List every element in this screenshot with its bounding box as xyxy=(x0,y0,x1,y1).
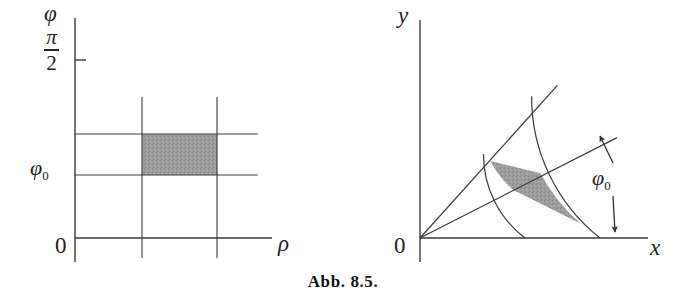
origin-label-right: 0 xyxy=(394,234,406,257)
phi0-right-label: φ0 xyxy=(592,167,611,192)
figure-caption: Abb. 8.5. xyxy=(0,272,686,292)
x-axis-label: x xyxy=(650,236,660,259)
shaded-sector-region xyxy=(490,161,580,224)
ray-phi-lower xyxy=(420,138,617,238)
right-panel-group xyxy=(420,20,648,262)
left-panel-group xyxy=(75,18,272,262)
pi-half-denominator: 2 xyxy=(45,52,58,74)
ray-phi-upper xyxy=(420,85,557,238)
shaded-rectangle-region xyxy=(142,134,217,175)
phi0-right-subscript: 0 xyxy=(604,178,611,193)
phi0-right-symbol: φ xyxy=(592,165,604,190)
phi0-arrow-to-axis xyxy=(613,196,615,232)
pi-half-numerator: π xyxy=(45,26,58,48)
y-axis-label: y xyxy=(398,4,408,27)
phi-axis-label: φ xyxy=(44,2,57,25)
pi-half-tick-label: π 2 xyxy=(44,26,59,74)
phi0-left-label: φ0 xyxy=(30,157,49,182)
phi0-left-subscript: 0 xyxy=(42,168,49,183)
arc-r-max xyxy=(532,96,600,238)
phi0-left-symbol: φ xyxy=(30,155,42,180)
rho-axis-label: ρ xyxy=(278,232,289,255)
figure-abb-8-5: φ π 2 φ0 0 ρ y 0 x φ0 Abb. 8.5. xyxy=(0,0,686,304)
origin-label-left: 0 xyxy=(55,234,67,257)
figure-canvas xyxy=(0,0,686,304)
